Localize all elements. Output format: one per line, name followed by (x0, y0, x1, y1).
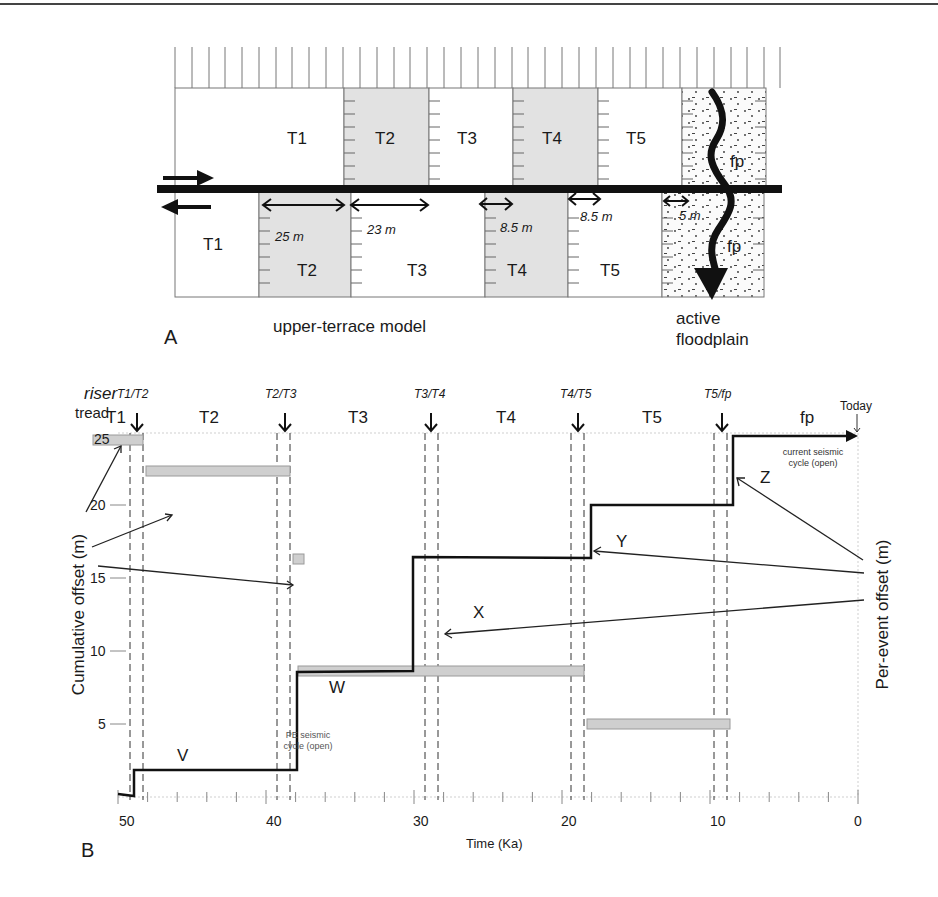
tread-label-fp: fp (800, 409, 814, 426)
floodplain-caption-line2: floodplain (676, 331, 749, 348)
y-tick-10: 10 (90, 644, 106, 658)
offset-label-8-5m-t5: 8.5 m (580, 210, 613, 223)
event-label-z: Z (760, 469, 770, 486)
lower-block-t3-label: T3 (407, 262, 427, 279)
upper-block-t5-label: T5 (626, 130, 646, 147)
riser-label-t4-t5: T4/T5 (560, 388, 591, 400)
panel-a-drawing (0, 0, 938, 340)
pe-cycle-note: PE seismic cycle (open) (273, 730, 343, 752)
lower-block-t2-label: T2 (297, 262, 317, 279)
riser-label-t3-t4: T3/T4 (414, 388, 445, 400)
y-tick-20: 20 (90, 498, 106, 512)
lower-block-t1-label: T1 (203, 236, 223, 253)
upper-block-fp-label: fp (730, 153, 744, 170)
x-tick-50: 50 (119, 814, 135, 828)
upper-block-t2-label: T2 (375, 130, 395, 147)
offset-label-5m: 5 m (679, 209, 701, 222)
y-axis-title-right: Per-event offset (m) (874, 525, 891, 705)
x-tick-0: 0 (854, 814, 862, 828)
tread-label-t1: T1 (106, 409, 126, 426)
y-tick-15: 15 (90, 571, 106, 585)
upper-block-t3-label: T3 (457, 130, 477, 147)
y-axis-title-left: Cumulative offset (m) (70, 525, 87, 705)
event-label-y: Y (616, 533, 627, 550)
panel-b-label: B (81, 840, 94, 860)
x-axis-title: Time (Ka) (466, 837, 523, 850)
current-cycle-note: current seismic cycle (open) (768, 447, 858, 469)
x-tick-20: 20 (561, 814, 577, 828)
today-label: Today (840, 400, 872, 412)
x-tick-30: 30 (413, 814, 429, 828)
lower-block-t5-label: T5 (600, 262, 620, 279)
tread-label-t4: T4 (496, 409, 516, 426)
y-tick-5: 5 (98, 717, 106, 731)
y-tick-25: 25 (94, 432, 110, 446)
panel-a-label: A (164, 327, 177, 347)
offset-label-25m: 25 m (275, 230, 304, 243)
x-tick-10: 10 (710, 814, 726, 828)
lower-block-fp-label: fp (727, 238, 741, 255)
riser-label-t1-t2: T1/T2 (117, 388, 148, 400)
offset-label-8-5m-t4: 8.5 m (500, 221, 533, 234)
lower-block-t4-label: T4 (507, 262, 527, 279)
riser-label-t2-t3: T2/T3 (265, 388, 296, 400)
event-label-x: X (473, 604, 484, 621)
event-label-v: V (177, 747, 188, 764)
x-tick-40: 40 (266, 814, 282, 828)
event-label-w: W (329, 679, 345, 696)
row-label-tread: tread (75, 405, 109, 420)
upper-block-t1-label: T1 (287, 130, 307, 147)
riser-label-t5-fp: T5/fp (704, 388, 731, 400)
upper-block-t4-label: T4 (542, 130, 562, 147)
offset-label-23m: 23 m (367, 223, 396, 236)
panel-a-caption: upper-terrace model (273, 318, 426, 335)
tread-label-t2: T2 (199, 409, 219, 426)
row-label-riser: riser (84, 385, 117, 402)
tread-label-t5: T5 (642, 409, 662, 426)
floodplain-caption-line1: active (676, 310, 720, 327)
fault-line (157, 185, 782, 193)
tread-label-t3: T3 (348, 409, 368, 426)
figure: T1 T2 T3 T4 T5 fp T1 T2 T3 T4 T5 fp 25 m… (0, 0, 938, 897)
